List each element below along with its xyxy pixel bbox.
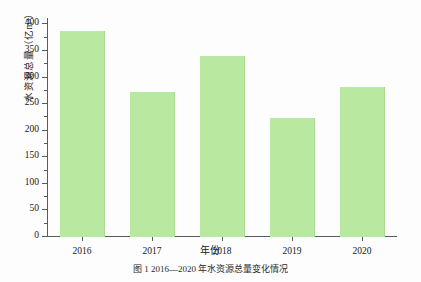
y-tick-minor xyxy=(44,196,47,197)
x-axis-title: 年份 xyxy=(0,242,421,257)
x-tick: 2019 xyxy=(292,237,293,241)
y-tick-label: 350 xyxy=(25,44,39,54)
y-tick: 150 xyxy=(42,156,47,157)
y-tick-label: 50 xyxy=(30,203,40,213)
x-tick: 2018 xyxy=(222,237,223,241)
bar xyxy=(270,118,315,237)
y-tick-minor xyxy=(44,223,47,224)
y-tick: 200 xyxy=(42,130,47,131)
figure-caption: 图 1 2016—2020 年水资源总量变化情况 xyxy=(0,262,421,275)
y-tick-minor xyxy=(44,63,47,64)
y-tick: 250 xyxy=(42,103,47,104)
y-tick-minor xyxy=(44,116,47,117)
y-tick-minor xyxy=(44,143,47,144)
y-tick: 50 xyxy=(42,209,47,210)
y-tick-minor xyxy=(44,90,47,91)
plot-area: 050100150200250300350400 201620172018201… xyxy=(47,18,397,237)
y-tick: 400 xyxy=(42,23,47,24)
y-tick-minor xyxy=(44,170,47,171)
x-tick: 2020 xyxy=(362,237,363,241)
y-tick-label: 150 xyxy=(25,150,39,160)
bar xyxy=(200,56,245,237)
y-tick-minor xyxy=(44,37,47,38)
y-tick: 100 xyxy=(42,183,47,184)
bar xyxy=(130,92,175,237)
y-tick-label: 100 xyxy=(25,177,39,187)
x-tick: 2017 xyxy=(152,237,153,241)
bar xyxy=(60,31,105,237)
y-tick-label: 0 xyxy=(34,230,39,240)
y-tick-label: 300 xyxy=(25,71,39,81)
y-tick-label: 200 xyxy=(25,124,39,134)
x-tick: 2016 xyxy=(82,237,83,241)
y-axis-line xyxy=(47,18,48,237)
y-tick: 350 xyxy=(42,50,47,51)
water-resource-bar-chart-figure: 水资源总量（亿m³） 050100150200250300350400 2016… xyxy=(0,0,421,282)
y-tick: 300 xyxy=(42,77,47,78)
bar xyxy=(340,87,385,237)
y-tick-label: 250 xyxy=(25,97,39,107)
y-tick-label: 400 xyxy=(25,17,39,27)
y-tick: 0 xyxy=(42,236,47,237)
